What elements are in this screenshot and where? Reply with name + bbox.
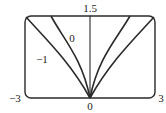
curve-0-right bbox=[90, 16, 130, 98]
x-left-tick-label: −3 bbox=[9, 92, 21, 104]
y-top-tick-label: 1.5 bbox=[83, 2, 97, 14]
x-right-tick-label: 3 bbox=[158, 92, 164, 104]
curve-label-minus1: −1 bbox=[36, 53, 48, 65]
x-origin-tick-label: 0 bbox=[87, 100, 93, 112]
plot: 1.5 −3 3 0 0 −1 bbox=[0, 0, 166, 113]
curve-label-0: 0 bbox=[69, 32, 75, 44]
curve-0-left bbox=[51, 16, 90, 98]
